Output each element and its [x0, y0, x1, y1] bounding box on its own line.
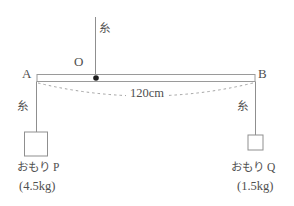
beam-length-label: 120cm — [126, 87, 168, 100]
point-b-label: B — [258, 67, 267, 80]
weight-q-box — [248, 135, 263, 150]
weight-p-box — [25, 132, 48, 156]
point-o-label: O — [74, 55, 83, 68]
fulcrum-dot — [93, 75, 99, 81]
weight-q-mass-label: (1.5kg) — [237, 180, 273, 193]
left-string-label: 糸 — [17, 101, 28, 113]
weight-p-mass-label: (4.5kg) — [19, 180, 55, 193]
physics-diagram: 糸 O A B 120cm 糸 糸 おもり P (4.5kg) おもり Q (1… — [0, 0, 294, 206]
point-a-label: A — [22, 67, 31, 80]
beam-rod — [37, 75, 255, 82]
top-string-label: 糸 — [99, 23, 110, 35]
diagram-figure — [0, 0, 294, 206]
weight-p-name-label: おもり P — [17, 162, 59, 174]
weight-q-name-label: おもり Q — [231, 162, 275, 174]
right-string-label: 糸 — [237, 101, 248, 113]
